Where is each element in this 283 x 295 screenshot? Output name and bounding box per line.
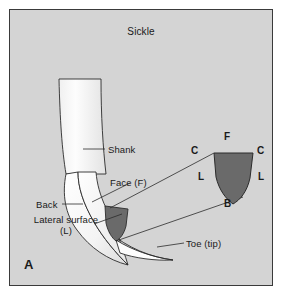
cross-section-label-lateral-right: L <box>258 171 264 182</box>
enlarged-cross-section <box>214 153 253 204</box>
callout-label-face: Face (F) <box>110 177 147 188</box>
shank-shape <box>59 79 106 174</box>
callout-label-toe: Toe (tip) <box>186 238 221 249</box>
cross-section-label-cutting-edge-right: C <box>257 145 264 156</box>
cross-section-label-lateral-left: L <box>198 171 204 182</box>
figure-panel-a: Sickle Shank Face (F) Back Lateral surfa… <box>9 9 273 286</box>
cross-section-label-back: B <box>224 198 231 209</box>
cross-section-label-cutting-edge-left: C <box>191 145 198 156</box>
figure-title: Sickle <box>10 26 272 37</box>
leader-line-toe <box>157 243 184 247</box>
callout-label-shank: Shank <box>108 144 135 155</box>
callout-label-lateral-surface: Lateral surface (L) <box>28 214 104 236</box>
figure-sickle-instrument: Sickle Shank Face (F) Back Lateral surfa… <box>0 0 283 295</box>
panel-letter: A <box>24 259 34 270</box>
callout-label-back: Back <box>36 199 58 210</box>
cross-section-label-face: F <box>224 131 230 142</box>
sickle-illustration-svg <box>10 10 272 285</box>
